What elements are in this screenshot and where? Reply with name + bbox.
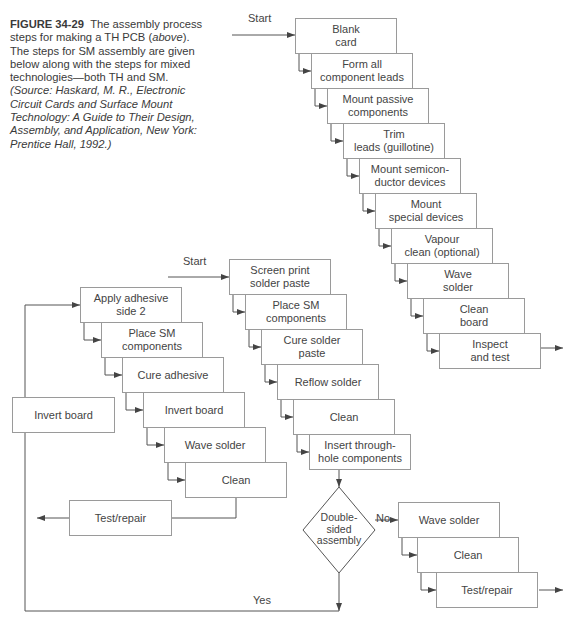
- side2-step-1: Place SM components: [101, 322, 203, 358]
- sm-step-1: Place SM components: [245, 294, 347, 330]
- side2-step-4: Wave solder: [164, 427, 266, 463]
- th-step-7: Wave solder: [407, 263, 509, 299]
- start-label-th: Start: [248, 12, 271, 24]
- th-step-3: Trim leads (guillotine): [343, 123, 445, 159]
- no-branch-step-1: Clean: [417, 537, 519, 573]
- invert-board-loop: Invert board: [12, 397, 115, 433]
- sm-step-3: Reflow solder: [277, 364, 379, 400]
- side2-step-3: Invert board: [143, 392, 245, 428]
- decision-text: Double- sided assembly: [303, 512, 375, 547]
- side2-step-5: Clean: [185, 462, 287, 498]
- sm-step-5: Insert through- hole components: [309, 434, 411, 470]
- th-step-4: Mount semicon- ductor devices: [359, 158, 461, 194]
- yes-label: Yes: [253, 594, 271, 606]
- th-step-2: Mount passive components: [327, 88, 429, 124]
- no-label: No: [376, 512, 390, 524]
- th-step-9: Inspect and test: [439, 333, 541, 369]
- side2-step-0: Apply adhesive side 2: [80, 287, 182, 323]
- start-label-sm: Start: [183, 255, 206, 267]
- th-step-5: Mount special devices: [375, 193, 477, 229]
- no-branch-step-0: Wave solder: [398, 502, 500, 538]
- sm-step-0: Screen print solder paste: [229, 259, 331, 295]
- th-step-8: Clean board: [423, 298, 525, 334]
- th-step-1: Form all component leads: [311, 53, 413, 89]
- side2-step-2: Cure adhesive: [122, 357, 224, 393]
- no-branch-step-2: Test/repair: [436, 572, 538, 608]
- th-step-0: Blank card: [295, 18, 397, 54]
- th-step-6: Vapour clean (optional): [391, 228, 493, 264]
- side2-test-repair: Test/repair: [69, 500, 172, 536]
- sm-step-2: Cure solder paste: [261, 329, 363, 365]
- sm-step-4: Clean: [293, 399, 395, 435]
